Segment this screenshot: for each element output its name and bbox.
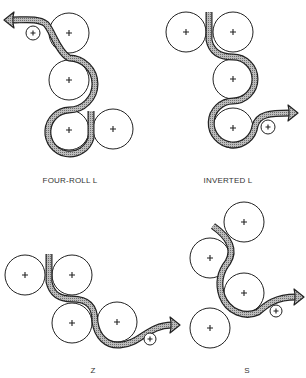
idler-roll	[261, 120, 275, 134]
roll	[190, 308, 230, 348]
arrow-head-icon	[294, 289, 304, 305]
panel-label-s: S	[244, 366, 250, 375]
roll	[5, 255, 45, 295]
roll	[93, 109, 133, 149]
panel-four-roll-l	[4, 12, 133, 154]
idler-roll	[270, 305, 282, 317]
panel-label-four-roll-l: FOUR-ROLL L	[43, 176, 98, 185]
panel-label-inverted-l: INVERTED L	[204, 176, 253, 185]
panel-inverted-l	[166, 12, 298, 148]
roll	[52, 255, 92, 295]
arrow-head-icon	[288, 105, 298, 121]
roll	[224, 202, 264, 242]
arrow-head-icon	[170, 317, 180, 333]
panel-label-z: Z	[90, 366, 95, 375]
idler-roll	[26, 26, 40, 40]
roll	[213, 12, 253, 52]
idler-roll	[144, 333, 156, 345]
arrow-head-icon	[4, 12, 14, 28]
panel-z	[5, 254, 180, 345]
roll	[52, 303, 92, 343]
roll	[166, 12, 206, 52]
panel-s	[190, 202, 304, 348]
roll-configurations-diagram	[0, 0, 306, 378]
